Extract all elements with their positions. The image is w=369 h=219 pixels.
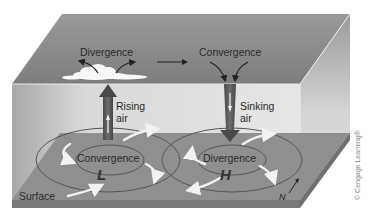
- pressure-systems-diagram: Divergence Convergence Rising air Sinkin…: [0, 0, 369, 219]
- high-pressure-symbol: H: [220, 166, 232, 183]
- box-top-face: [12, 14, 350, 84]
- rising-air-label-1: Rising: [116, 100, 145, 112]
- surface-divergence-label: Divergence: [203, 152, 256, 164]
- surface-plane: [12, 133, 350, 200]
- upper-divergence-label: Divergence: [80, 46, 133, 58]
- sinking-air-label-1: Sinking: [240, 100, 275, 112]
- rising-air-label-2: air: [116, 112, 128, 124]
- surface-label: Surface: [19, 190, 55, 202]
- copyright-credit: © Cengage Learning®: [354, 129, 362, 200]
- upper-convergence-label: Convergence: [199, 46, 262, 58]
- sinking-air-label-2: air: [240, 112, 252, 124]
- north-label: N: [279, 192, 286, 202]
- low-pressure-symbol: L: [97, 166, 106, 183]
- surface-convergence-label: Convergence: [77, 152, 140, 164]
